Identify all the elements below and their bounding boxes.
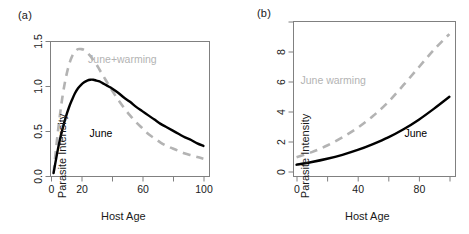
panel-a-curve-june bbox=[54, 80, 204, 173]
panel-a-xtick-1: 20 bbox=[76, 183, 88, 195]
panel-a-ytick-0: 0.0 bbox=[32, 169, 44, 184]
panel-b: (b) 0 2 4 6 8 bbox=[235, 0, 469, 234]
panel-b-ytick-0: 0 bbox=[275, 169, 287, 175]
panel-b-x-axis: 0 40 80 bbox=[294, 177, 450, 196]
panel-a-ytick-2: 1.0 bbox=[32, 79, 44, 94]
panel-b-series-label-june: June bbox=[404, 127, 427, 139]
panel-b-xtick-2: 40 bbox=[352, 183, 364, 195]
figure-container: (a) 0.0 0.5 1.0 1.5 bbox=[0, 0, 469, 234]
panel-b-y-axis: 0 2 4 6 8 bbox=[275, 22, 294, 175]
panel-a-series-label-june: June bbox=[90, 127, 113, 139]
panel-a-y-axis: 0.0 0.5 1.0 1.5 bbox=[32, 34, 51, 184]
panel-a-xtick-3: 60 bbox=[137, 183, 149, 195]
panel-a: (a) 0.0 0.5 1.0 1.5 bbox=[0, 0, 235, 234]
panel-a-ytick-3: 1.5 bbox=[32, 34, 44, 49]
panel-a-x-axis: 0 20 60 100 bbox=[49, 177, 213, 196]
panel-a-series-label-june-warming: June+warming bbox=[88, 53, 157, 65]
panel-a-curve-june-warming bbox=[54, 49, 204, 173]
panel-a-xlabel: Host Age bbox=[101, 210, 146, 222]
panel-a-plot: 0.0 0.5 1.0 1.5 0 20 60 100 bbox=[0, 0, 235, 234]
panel-a-xtick-0: 0 bbox=[49, 183, 55, 195]
panel-b-series-label-june-warming: June warming bbox=[301, 74, 367, 86]
panel-b-xlabel: Host Age bbox=[345, 210, 390, 222]
panel-a-xtick-5: 100 bbox=[195, 183, 213, 195]
panel-a-ytick-1: 0.5 bbox=[32, 124, 44, 139]
panel-b-xtick-4: 80 bbox=[414, 183, 426, 195]
panel-b-ytick-2: 4 bbox=[275, 109, 287, 115]
panel-b-plot: 0 2 4 6 8 0 40 80 bbox=[235, 0, 469, 234]
panel-b-ylabel: Parasite Intensity bbox=[299, 114, 311, 198]
panel-b-ytick-1: 2 bbox=[275, 139, 287, 145]
panel-b-plot-frame bbox=[294, 22, 456, 177]
panel-a-ylabel: Parasite Intensity bbox=[56, 114, 68, 198]
panel-b-ytick-3: 6 bbox=[275, 79, 287, 85]
panel-b-ytick-4: 8 bbox=[275, 49, 287, 55]
